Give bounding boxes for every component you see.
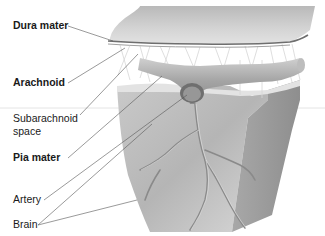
label-dura-mater: Dura mater — [13, 19, 68, 32]
brain-block — [117, 80, 300, 232]
dura-mater-layer — [108, 6, 315, 47]
label-pia-mater: Pia mater — [13, 151, 60, 164]
label-artery: Artery — [13, 193, 41, 206]
label-arachnoid: Arachnoid — [13, 76, 65, 89]
label-brain: Brain — [13, 218, 38, 231]
label-subarachnoid-space: Subarachnoid space — [13, 112, 93, 138]
